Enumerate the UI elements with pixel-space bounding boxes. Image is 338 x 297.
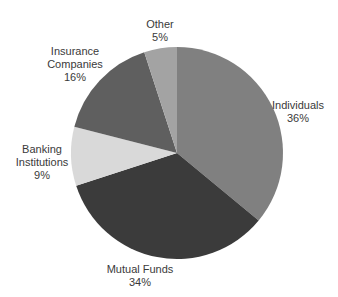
label-mutual-funds: Mutual Funds 34% [107,263,174,289]
label-mutual-funds-percent: 34% [107,276,174,289]
label-insurance-percent: 16% [47,71,103,84]
label-individuals-name: Individuals [272,99,324,112]
label-individuals-percent: 36% [272,112,324,125]
label-banking-percent: 9% [16,169,69,182]
label-banking-institutions: Banking Institutions 9% [16,143,69,182]
label-banking-name-1: Banking [16,143,69,156]
label-other-name: Other [146,18,174,31]
label-mutual-funds-name: Mutual Funds [107,263,174,276]
label-insurance-name-2: Companies [47,58,103,71]
label-other-percent: 5% [146,31,174,44]
label-insurance-name-1: Insurance [47,45,103,58]
label-banking-name-2: Institutions [16,156,69,169]
label-individuals: Individuals 36% [272,99,324,125]
label-insurance-companies: Insurance Companies 16% [47,45,103,84]
label-other: Other 5% [146,18,174,44]
